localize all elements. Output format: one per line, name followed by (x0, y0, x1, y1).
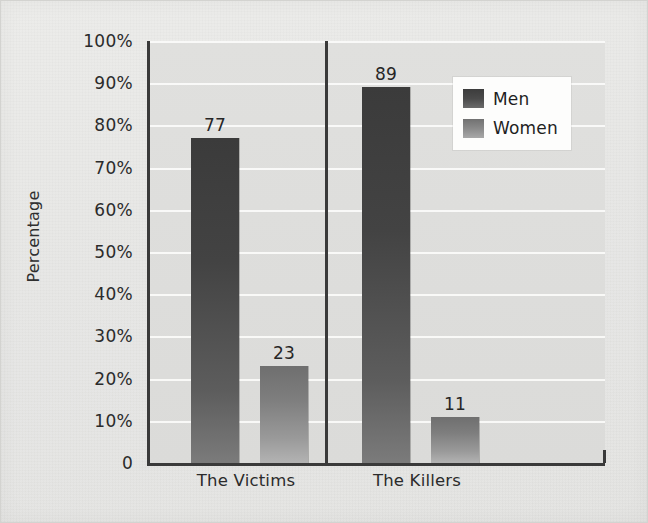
y-tick-50: 50% (94, 242, 133, 262)
chart-legend: Men Women (453, 77, 571, 150)
y-tick-100: 100% (83, 31, 133, 51)
legend-item-men[interactable]: Men (463, 89, 563, 109)
legend-label-men: Men (493, 89, 530, 109)
bar-value-victims-men: 77 (204, 115, 226, 135)
y-tick-70: 70% (94, 158, 133, 178)
chart-figure: Percentage 100% 90% 80% 70% 60% 50% 40% … (0, 0, 648, 523)
y-tick-80: 80% (94, 115, 133, 135)
y-tick-10: 10% (94, 411, 133, 431)
y-tick-40: 40% (94, 284, 133, 304)
bar-value-victims-women: 23 (273, 343, 295, 363)
y-axis-tick-labels: 100% 90% 80% 70% 60% 50% 40% 30% 20% 10%… (53, 41, 141, 463)
bar-victims-men[interactable]: 77 (191, 138, 239, 463)
legend-swatch-women-icon (463, 119, 484, 138)
legend-swatch-men-icon (463, 89, 484, 108)
y-tick-20: 20% (94, 369, 133, 389)
x-tick-the-killers: The Killers (373, 471, 461, 490)
y-tick-60: 60% (94, 200, 133, 220)
bar-victims-women[interactable]: 23 (260, 366, 308, 463)
x-axis-end-tick (603, 450, 606, 463)
y-tick-0: 0 (122, 453, 133, 473)
y-tick-90: 90% (94, 73, 133, 93)
x-axis-tick-labels: The Victims The Killers (147, 471, 602, 501)
bar-killers-women[interactable]: 11 (431, 417, 479, 463)
legend-label-women: Women (493, 118, 558, 138)
bar-killers-men[interactable]: 89 (362, 87, 410, 463)
y-axis-title: Percentage (15, 1, 51, 471)
bar-value-killers-men: 89 (375, 64, 397, 84)
legend-item-women[interactable]: Women (463, 118, 563, 138)
y-axis-title-text: Percentage (24, 190, 43, 282)
gridline-100 (150, 41, 605, 43)
bar-value-killers-women: 11 (444, 394, 466, 414)
category-separator (325, 41, 328, 463)
y-tick-30: 30% (94, 326, 133, 346)
x-tick-the-victims: The Victims (197, 471, 295, 490)
plot-area: 77 23 89 11 Men Women (147, 41, 605, 466)
